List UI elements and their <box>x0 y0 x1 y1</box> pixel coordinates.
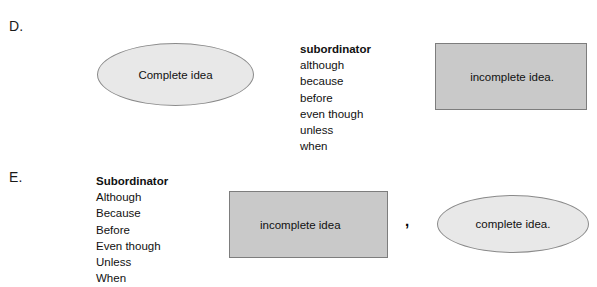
subordinator-word: Before <box>96 222 168 238</box>
subordinator-word: even though <box>300 106 371 122</box>
complete-idea-ellipse-e-label: complete idea. <box>476 218 551 230</box>
incomplete-idea-rectangle-e-label: incomplete idea <box>230 219 341 231</box>
subordinator-word: Even though <box>96 238 168 254</box>
subordinator-list-d-heading: subordinator <box>300 41 371 57</box>
complete-idea-ellipse-d-label: Complete idea <box>138 69 212 81</box>
subordinator-word: Because <box>96 205 168 221</box>
subordinator-word: When <box>96 270 168 286</box>
complete-idea-ellipse-d: Complete idea <box>97 43 254 106</box>
section-letter-e: E. <box>9 170 23 184</box>
subordinator-word: Unless <box>96 254 168 270</box>
subordinator-word: although <box>300 57 371 73</box>
subordinator-word: before <box>300 90 371 106</box>
section-letter-d: D. <box>9 19 23 33</box>
incomplete-idea-rectangle-e: incomplete idea <box>229 191 388 258</box>
subordinator-word: because <box>300 73 371 89</box>
incomplete-idea-rectangle-d-label: incomplete idea. <box>468 71 554 83</box>
complete-idea-ellipse-e: complete idea. <box>437 195 589 253</box>
comma-separator-e: , <box>405 213 409 228</box>
subordinator-word: Although <box>96 189 168 205</box>
subordinator-list-e-heading: Subordinator <box>96 173 168 189</box>
subordinator-word: unless <box>300 122 371 138</box>
subordinator-list-d: subordinator although because before eve… <box>300 41 371 154</box>
incomplete-idea-rectangle-d: incomplete idea. <box>435 43 587 110</box>
diagram-canvas: D. Complete idea subordinator although b… <box>0 0 597 287</box>
subordinator-list-e: Subordinator Although Because Before Eve… <box>96 173 168 286</box>
subordinator-word: when <box>300 138 371 154</box>
